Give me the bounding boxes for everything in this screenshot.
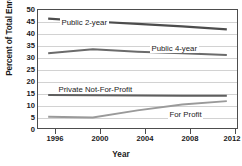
y-tick-0: 0: [21, 126, 35, 134]
line-private-not-for-profit: [48, 95, 227, 96]
line-public-4-year: [48, 49, 227, 55]
series-label-public-2-year: Public 2-year: [60, 18, 109, 27]
series-label-for-profit: For Profit: [168, 110, 203, 119]
x-tick-2008: 2008: [170, 134, 210, 143]
series-label-public-4-year: Public 4-year: [150, 44, 199, 53]
series-lines: [37, 9, 238, 129]
x-axis-title: Year: [0, 150, 242, 159]
x-axis-tick-labels: 1996 2000 2004 2008 2012: [0, 134, 242, 146]
y-tick-30: 30: [21, 54, 35, 62]
y-tick-20: 20: [21, 78, 35, 86]
enrollment-line-chart: Percent of Total Enrollment 50 45 40 35 …: [0, 0, 242, 166]
y-tick-5: 5: [21, 114, 35, 122]
x-tick-2012: 2012: [212, 134, 242, 143]
y-tick-40: 40: [21, 30, 35, 38]
y-tick-35: 35: [21, 42, 35, 50]
series-label-private-not-for-profit: Private Not-For-Profit: [57, 85, 134, 94]
y-tick-50: 50: [21, 6, 35, 14]
x-tick-2000: 2000: [80, 134, 120, 143]
y-tick-25: 25: [21, 66, 35, 74]
y-tick-15: 15: [21, 90, 35, 98]
y-tick-10: 10: [21, 102, 35, 110]
x-tick-2004: 2004: [125, 134, 165, 143]
x-tick-1996: 1996: [35, 134, 75, 143]
y-tick-45: 45: [21, 18, 35, 26]
